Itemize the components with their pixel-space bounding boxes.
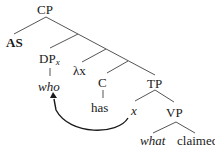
node-cp: CP [37, 3, 53, 16]
node-what: what [140, 134, 165, 147]
dp-subscript: x [56, 57, 60, 67]
node-dp: DPx [39, 52, 60, 69]
node-vp: VP [166, 106, 183, 119]
node-tp: TP [147, 77, 162, 90]
node-x: x [131, 104, 137, 117]
dp-label: DP [39, 51, 56, 66]
tree-edges [0, 0, 215, 150]
node-c: C [98, 76, 107, 89]
node-has: has [91, 101, 108, 114]
node-as: AS [6, 36, 23, 49]
node-who: who [38, 80, 60, 93]
node-claimed: claimed [177, 134, 215, 147]
node-lambda: λx [73, 64, 86, 77]
